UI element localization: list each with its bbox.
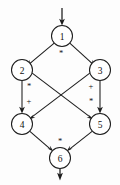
node-6-label: 6 [58,154,63,164]
node-6[interactable]: 6 [50,148,71,169]
edge-1-to-2 [26,43,54,66]
edge-label-top: * [59,48,63,58]
node-3-label: 3 [98,66,103,76]
node-1[interactable]: 1 [52,26,73,47]
node-4[interactable]: 4 [12,114,33,135]
node-3[interactable]: 3 [90,60,111,81]
edge-label-left-lower: + [27,96,32,106]
node-5-label: 5 [98,120,103,130]
edge-label-right-upper: + [89,81,94,91]
edge-3-to-4 [28,73,89,119]
node-2-label: 2 [20,66,25,76]
output-arrow [57,169,63,181]
dataflow-graph-diagram: 1 2 3 4 5 6 * * + + * * [0,0,120,185]
edge-label-bottom: * [58,136,62,146]
edge-4-to-6 [30,131,54,151]
node-2[interactable]: 2 [12,60,33,81]
edge-2-to-4 [19,81,25,114]
edge-label-right-lower: * [89,96,93,106]
edge-3-to-5 [97,81,103,114]
graph-canvas: 1 2 3 4 5 6 * * + + * * [0,0,120,185]
input-arrow [59,8,65,26]
node-5[interactable]: 5 [90,114,111,135]
node-1-label: 1 [60,32,65,42]
edge-2-to-5 [32,73,93,119]
node-4-label: 4 [20,120,25,130]
edge-label-left-upper: * [27,81,31,91]
edge-5-to-6 [66,131,92,151]
